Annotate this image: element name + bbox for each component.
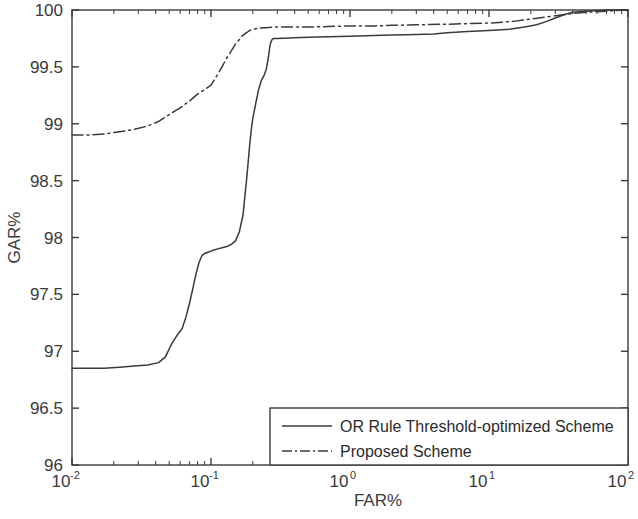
axis-frame bbox=[72, 10, 628, 465]
y-tick-label: 96.5 bbox=[30, 399, 63, 418]
x-tick-label: 100 bbox=[330, 469, 357, 491]
y-tick-label: 97 bbox=[44, 342, 63, 361]
series-layer bbox=[72, 10, 628, 368]
y-axis-ticks bbox=[72, 10, 628, 465]
x-tick-base: 10 bbox=[469, 472, 488, 491]
x-tick-exponent: -1 bbox=[209, 469, 219, 481]
y-tick-label: 97.5 bbox=[30, 285, 63, 304]
legend-label-1: OR Rule Threshold-optimized Scheme bbox=[340, 418, 614, 435]
series-line-2 bbox=[72, 10, 628, 135]
x-axis-tick-labels: 10-210-1100101102 bbox=[52, 469, 635, 491]
x-tick-base: 10 bbox=[330, 472, 349, 491]
y-tick-label: 98 bbox=[44, 229, 63, 248]
x-tick-base: 10 bbox=[608, 472, 627, 491]
plot-border bbox=[72, 10, 628, 465]
figure-container: 10-210-1100101102 9696.59797.59898.59999… bbox=[0, 0, 638, 519]
roc-chart: 10-210-1100101102 9696.59797.59898.59999… bbox=[0, 0, 638, 519]
y-tick-label: 96 bbox=[44, 456, 63, 475]
series-line-1 bbox=[72, 10, 628, 368]
x-tick-label: 101 bbox=[469, 469, 496, 491]
x-tick-label: 10-1 bbox=[191, 469, 219, 491]
y-tick-label: 99 bbox=[44, 115, 63, 134]
chart-legend: OR Rule Threshold-optimized SchemePropos… bbox=[270, 408, 628, 465]
y-tick-label: 99.5 bbox=[30, 58, 63, 77]
x-axis-title: FAR% bbox=[354, 491, 402, 510]
x-tick-label: 102 bbox=[608, 469, 635, 491]
y-axis-title: GAR% bbox=[5, 212, 24, 264]
legend-label-2: Proposed Scheme bbox=[340, 443, 472, 460]
y-tick-label: 98.5 bbox=[30, 172, 63, 191]
x-axis-ticks bbox=[72, 10, 628, 465]
x-tick-exponent: -2 bbox=[70, 469, 80, 481]
y-axis-tick-labels: 9696.59797.59898.59999.5100 bbox=[30, 1, 63, 475]
x-tick-exponent: 1 bbox=[489, 469, 495, 481]
x-tick-base: 10 bbox=[191, 472, 210, 491]
x-tick-exponent: 0 bbox=[350, 469, 356, 481]
x-tick-exponent: 2 bbox=[628, 469, 634, 481]
y-tick-label: 100 bbox=[35, 1, 63, 20]
